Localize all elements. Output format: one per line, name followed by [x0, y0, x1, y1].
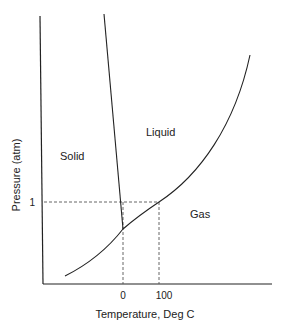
y-axis — [40, 16, 43, 284]
y-axis-title: Pressure (atm) — [10, 139, 22, 212]
melting-line — [104, 14, 123, 229]
phase-diagram: Solid Liquid Gas 0 100 1 Temperature, De… — [0, 0, 288, 332]
region-label-liquid: Liquid — [146, 126, 175, 138]
x-tick-0: 0 — [120, 290, 126, 301]
vapor-pressure-curve — [65, 55, 250, 276]
x-tick-100: 100 — [156, 290, 173, 301]
region-label-gas: Gas — [190, 208, 211, 220]
region-label-solid: Solid — [60, 150, 84, 162]
y-tick-1: 1 — [29, 197, 35, 208]
x-axis-title: Temperature, Deg C — [95, 308, 194, 320]
